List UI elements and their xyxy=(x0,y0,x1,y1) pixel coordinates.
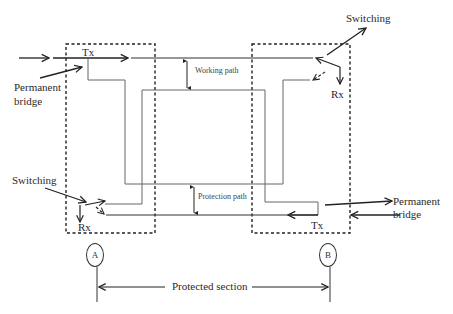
switching-pointer-right xyxy=(327,28,366,55)
switch-arm-left xyxy=(85,201,105,205)
switch-dashed-right xyxy=(313,72,325,80)
tx-label-right: Tx xyxy=(311,220,323,231)
permanent-bridge-pointer-left xyxy=(40,67,82,78)
tx-label-left: Tx xyxy=(82,47,94,58)
working-path-label: Working path xyxy=(195,67,239,75)
permanent-bridge-label-right-2: bridge xyxy=(393,209,421,220)
bridge-line-left xyxy=(88,58,310,184)
switch-arm-right xyxy=(316,58,340,67)
permanent-bridge-pointer-right xyxy=(325,201,392,205)
protection-diagram-canvas xyxy=(0,0,453,314)
permanent-bridge-label-left-1: Permanent xyxy=(14,82,61,93)
permanent-bridge-label-right-1: Permanent xyxy=(393,196,440,207)
switching-label-left: Switching xyxy=(12,175,57,186)
protection-path-label: Protection path xyxy=(198,193,247,201)
permanent-bridge-label-left-2: bridge xyxy=(14,96,42,107)
node-b: B xyxy=(319,243,337,267)
node-a: A xyxy=(86,243,104,267)
protected-section-label: Protected section xyxy=(172,281,247,292)
switching-label-right: Switching xyxy=(346,13,391,24)
rx-label-right: Rx xyxy=(331,89,344,100)
switch-dashed-left xyxy=(96,207,104,214)
rx-label-left: Rx xyxy=(78,222,91,233)
